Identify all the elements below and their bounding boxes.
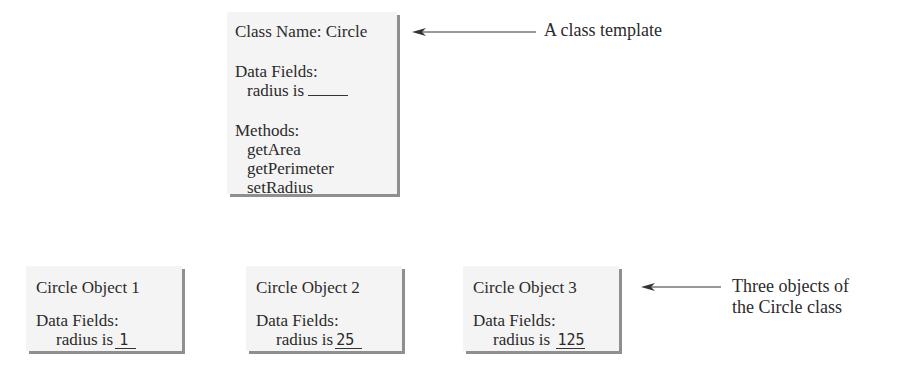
radius-field: radius is [247,81,348,101]
radius-field-label: radius is [247,81,304,100]
method-getarea: getArea [247,140,301,160]
class-template-box: Class Name: Circle Data Fields: radius i… [227,12,397,194]
data-fields-label: Data Fields: [256,311,339,331]
objects-note-line-2: the Circle class [732,297,842,318]
radius-blank [308,81,348,96]
circle-object-1-box: Circle Object 1 Data Fields: radius is1 [26,266,182,351]
class-name: Class Name: Circle [235,22,367,42]
object-title: Circle Object 2 [256,278,360,298]
method-setradius: setRadius [247,178,313,198]
data-fields-label: Data Fields: [235,62,318,82]
class-template-note: A class template [544,20,662,41]
radius-value: 1 [115,332,136,349]
circle-object-2-box: Circle Object 2 Data Fields: radius is25 [246,266,402,351]
radius-field: radius is1 [56,330,136,350]
object-title: Circle Object 1 [36,278,140,298]
radius-field: radius is 125 [493,330,585,350]
objects-arrow-icon [641,281,721,293]
radius-field-label: radius is [493,330,550,349]
radius-field-label: radius is [56,330,113,349]
radius-value: 125 [556,332,585,349]
circle-object-3-box: Circle Object 3 Data Fields: radius is 1… [463,266,619,351]
data-fields-label: Data Fields: [473,311,556,331]
radius-field-label: radius is [276,330,333,349]
objects-note-line-1: Three objects of [732,276,849,297]
method-getperimeter: getPerimeter [247,159,334,179]
class-template-arrow-icon [412,26,537,38]
radius-value: 25 [335,332,362,349]
methods-label: Methods: [235,121,299,141]
data-fields-label: Data Fields: [36,311,119,331]
radius-field: radius is25 [276,330,362,350]
object-title: Circle Object 3 [473,278,577,298]
